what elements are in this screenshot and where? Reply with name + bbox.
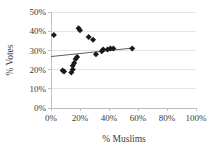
y-axis-tick-labels: 0%10%20%30%40%50% [30, 7, 47, 113]
x-tick-label: 0% [45, 113, 58, 123]
x-axis-tick-labels: 0%20%40%60%80%100% [45, 113, 207, 123]
tick-marks [48, 12, 196, 111]
x-tick-label: 100% [186, 113, 208, 123]
axis-lines [51, 12, 196, 108]
trendline [51, 48, 132, 56]
y-tick-label: 20% [30, 65, 47, 75]
y-axis-title: % Votes [5, 44, 15, 75]
chart-canvas: 0%10%20%30%40%50% 0%20%40%60%80%100% % V… [0, 0, 212, 147]
y-tick-label: 50% [30, 7, 47, 17]
x-tick-label: 20% [72, 113, 89, 123]
x-tick-label: 40% [101, 113, 118, 123]
data-point-marker [86, 34, 92, 40]
data-point-marker [90, 37, 96, 43]
y-tick-label: 40% [30, 26, 47, 36]
x-tick-label: 80% [159, 113, 176, 123]
y-tick-label: 30% [30, 46, 47, 56]
y-tick-label: 10% [30, 84, 47, 94]
y-tick-label: 0% [34, 103, 47, 113]
data-point-marker [51, 32, 57, 38]
x-tick-label: 60% [130, 113, 147, 123]
x-axis-title: % Muslims [102, 134, 146, 144]
gridlines [51, 12, 196, 108]
scatter-chart: 0%10%20%30%40%50% 0%20%40%60%80%100% % V… [0, 0, 212, 147]
